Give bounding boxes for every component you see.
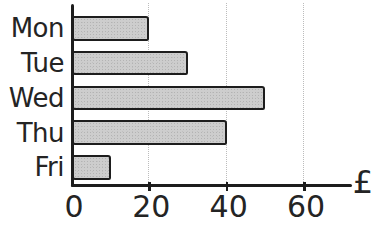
x-axis-unit-label: £ — [353, 166, 373, 198]
bar-thu — [72, 120, 227, 145]
x-tick-40 — [226, 182, 229, 191]
bar-mon — [72, 16, 149, 41]
bar-wed — [72, 86, 265, 111]
chart-canvas: MonTueWedThuFri 0204060 £ — [0, 0, 386, 232]
x-tick-60 — [303, 182, 306, 191]
gridline-60 — [303, 3, 304, 184]
x-axis-line — [71, 184, 352, 187]
bar-chart: MonTueWedThuFri 0204060 £ — [0, 0, 386, 232]
x-tick-20 — [148, 182, 151, 191]
category-label-fri: Fri — [0, 154, 64, 181]
category-label-tue: Tue — [0, 50, 64, 77]
category-label-thu: Thu — [0, 119, 64, 146]
x-tick-label-40: 40 — [210, 192, 248, 222]
bar-tue — [72, 51, 188, 76]
category-label-wed: Wed — [0, 85, 64, 112]
category-label-mon: Mon — [0, 15, 64, 42]
bar-fri — [72, 155, 111, 180]
y-axis-line — [71, 4, 74, 187]
x-tick-label-60: 60 — [287, 192, 325, 222]
x-tick-label-0: 0 — [64, 192, 83, 222]
x-tick-label-20: 20 — [132, 192, 170, 222]
